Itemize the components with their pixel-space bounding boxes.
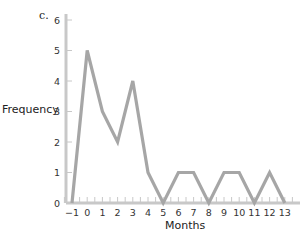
x-tick-label: 7 [191, 207, 197, 218]
x-tick-label: 11 [248, 207, 260, 218]
x-tick-label: 3 [130, 207, 136, 218]
y-tick-label: 6 [54, 15, 60, 26]
x-tick-label: 1 [99, 207, 105, 218]
frequency-polygon-chart: 0123456−1012345678910111213 [0, 0, 306, 237]
x-tick-label: 0 [84, 207, 90, 218]
y-tick-label: 0 [54, 198, 60, 209]
y-tick-label: 1 [54, 167, 60, 178]
x-tick-label: 8 [206, 207, 212, 218]
frequency-line [72, 51, 285, 204]
x-tick-label: 4 [145, 207, 151, 218]
x-tick-label: 12 [264, 207, 276, 218]
y-tick-label: 4 [54, 76, 60, 87]
y-tick-label: 2 [54, 137, 60, 148]
x-tick-label: −1 [65, 207, 79, 218]
x-tick-label: 6 [175, 207, 181, 218]
y-tick-label: 3 [54, 106, 60, 117]
y-tick-label: 5 [54, 45, 60, 56]
x-tick-label: 13 [279, 207, 291, 218]
x-tick-label: 2 [115, 207, 121, 218]
x-tick-label: 10 [233, 207, 245, 218]
x-tick-label: 9 [221, 207, 227, 218]
x-tick-label: 5 [160, 207, 166, 218]
